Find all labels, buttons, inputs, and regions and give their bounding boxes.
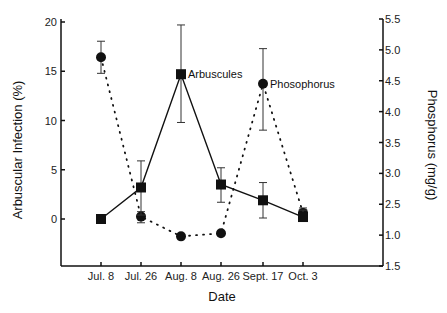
square-marker [176,69,186,79]
series-arbuscules [96,25,308,224]
dual-axis-line-chart: 20151050 5.55.04.54.03.53.02.51.01.5 Jul… [0,0,447,313]
square-marker [216,180,226,190]
right-tick-label: 3.0 [385,167,400,179]
x-tick-label: Jul. 8 [88,270,114,282]
square-marker [298,212,308,222]
right-tick-label: 2.5 [385,198,400,210]
annotation-arbuscules: Arbuscules [188,68,243,80]
right-tick-label: 4.0 [385,106,400,118]
x-tick-label: Jul. 26 [125,270,157,282]
right-axis-ticks: 5.55.04.54.03.53.02.51.01.5 [379,13,400,272]
circle-marker [216,228,226,238]
right-tick-label: 1.0 [385,229,400,241]
right-tick-label: 4.5 [385,75,400,87]
left-axis-title: Arbuscular Infection (%) [10,81,25,220]
right-tick-label: 3.5 [385,137,400,149]
square-marker [258,195,268,205]
x-tick-label: Aug. 8 [165,270,197,282]
circle-marker [258,79,268,89]
series-line [101,74,303,219]
right-axis-title: Phosphorus (mg/g) [425,90,440,201]
left-axis-ticks: 20151050 [45,16,65,225]
right-tick-label: 5.0 [385,44,400,56]
x-axis-ticks: Jul. 8Jul. 26Aug. 8Aug. 26Sept. 17Oct. 3 [88,262,318,282]
x-axis-title: Date [208,289,235,304]
left-tick-label: 0 [51,213,57,225]
left-tick-label: 15 [45,65,57,77]
right-tick-label: 1.5 [385,260,400,272]
circle-marker [96,52,106,62]
left-tick-label: 20 [45,16,57,28]
x-tick-label: Sept. 17 [243,270,284,282]
left-tick-label: 5 [51,164,57,176]
annotation-phosphorus: Phosophorus [270,78,335,90]
square-marker [136,182,146,192]
square-marker [96,214,106,224]
x-tick-label: Oct. 3 [288,270,317,282]
x-tick-label: Aug. 26 [202,270,240,282]
circle-marker [176,231,186,241]
right-tick-label: 5.5 [385,13,400,25]
left-tick-label: 10 [45,115,57,127]
